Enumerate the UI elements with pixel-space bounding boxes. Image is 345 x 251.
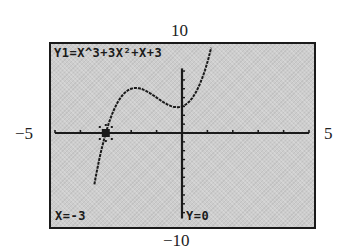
axes [55, 68, 309, 218]
y-max-label: 10 [171, 22, 188, 39]
x-min-label: −5 [15, 125, 33, 142]
y-min-label: −10 [163, 232, 190, 249]
trace-x-readout: X=-3 [55, 210, 86, 222]
x-max-label: 5 [324, 125, 333, 142]
equation-label: Y1=X^3+3X²+X+3 [54, 47, 162, 59]
calculator-screen [49, 42, 316, 229]
graph-canvas [51, 44, 314, 227]
trace-y-readout: Y=0 [186, 210, 209, 222]
function-curve [94, 48, 211, 185]
